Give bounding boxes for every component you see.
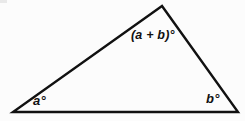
bottom-right-angle-label: b°	[206, 92, 220, 105]
scan-artifact	[0, 0, 7, 3]
bottom-left-angle-label: a°	[33, 94, 46, 107]
apex-angle-label: (a + b)°	[131, 29, 175, 42]
triangle-outline	[13, 6, 238, 112]
triangle-figure: (a + b)° a° b°	[0, 0, 245, 121]
